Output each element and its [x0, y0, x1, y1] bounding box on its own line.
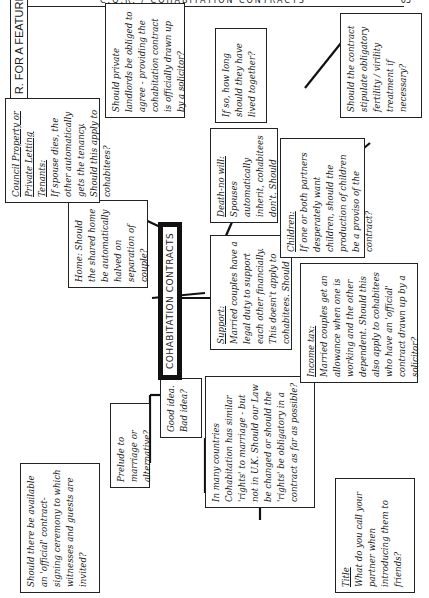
- node-home: Home: Should the shared home be automati…: [68, 200, 148, 288]
- node-text: In many countries Cohabitation has simil…: [211, 383, 299, 502]
- node-ceremony: Should there be available an 'official' …: [20, 463, 100, 593]
- node-prelude: Prelude to marriage or alternative?: [110, 403, 150, 488]
- node-good-bad: Good idea. Bad idea?: [160, 378, 202, 438]
- node-text: Married couples get an allowance when on…: [319, 272, 420, 377]
- node-title: Title What do you call your partner when…: [335, 478, 415, 593]
- node-text: Prelude to marriage or alternative?: [116, 430, 152, 482]
- node-text: If so, how long should they have lived t…: [221, 43, 257, 117]
- node-income: Income tax: Married couples get an allow…: [300, 263, 418, 383]
- node-fertility: Should the contract stipulate obligatory…: [340, 13, 422, 118]
- node-text: Should the contract stipulate obligatory…: [346, 26, 408, 112]
- node-text: If spouse dies, the other automatically …: [50, 110, 112, 197]
- node-council: Council Property or Private Letting Tena…: [5, 98, 100, 203]
- node-text: Home: Should the shared home be automati…: [74, 209, 149, 282]
- node-heading: Children:: [285, 144, 298, 252]
- node-death: Death-no will: Spouses automatically inh…: [210, 128, 278, 223]
- node-heading: Support:: [215, 241, 228, 344]
- node-countries: In many countries Cohabitation has simil…: [205, 376, 315, 508]
- node-text: If one or both partners desperately want…: [299, 152, 374, 252]
- node-text: What do you call your partner when intro…: [354, 492, 403, 587]
- node-children: Children: If one or both partners desper…: [280, 138, 365, 258]
- node-heading: Title: [340, 484, 353, 587]
- node-text: Good idea. Bad idea?: [166, 385, 189, 432]
- node-heading: Income tax:: [305, 269, 318, 377]
- node-text: Should there be available an 'official' …: [26, 469, 88, 587]
- node-how-long: If so, how long should they have lived t…: [215, 28, 267, 123]
- node-heading: Death-no will:: [215, 134, 228, 217]
- mind-map: C. Q. R. FOR A FEATURE Should there be a…: [0, 0, 429, 598]
- center-topic: COHABITATION CONTRACTS: [158, 222, 182, 380]
- node-heading: Council Property or Private Letting Tena…: [10, 104, 49, 197]
- node-landlords: Should private landlords be obliged to a…: [105, 3, 185, 118]
- node-text: Should private landlords be obliged to a…: [111, 11, 186, 112]
